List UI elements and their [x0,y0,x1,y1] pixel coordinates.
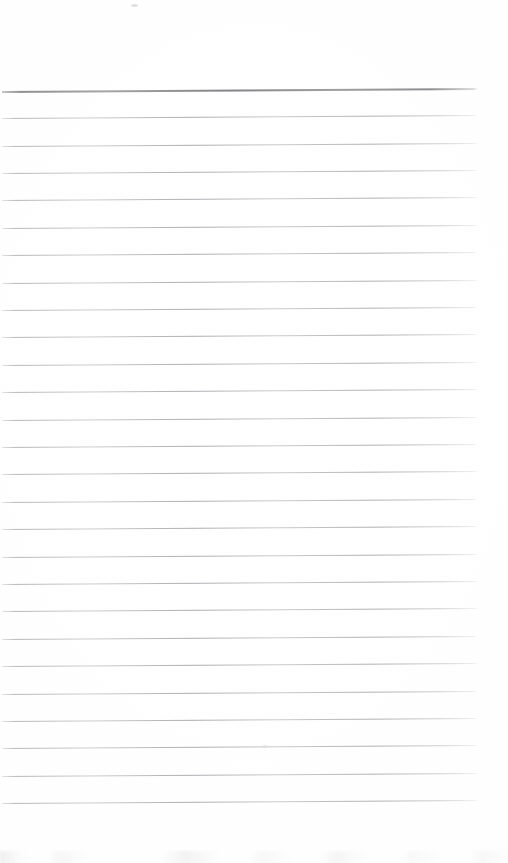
scanned-page [0,0,508,863]
rule-ink [2,197,478,201]
rule-ink [2,718,478,722]
ruled-line [2,581,478,585]
header-rule [2,88,478,93]
ruled-line [2,417,478,421]
rule-ink [2,581,478,585]
rule-ink [2,362,478,366]
rule-ink [2,608,478,612]
rule-ink [2,800,478,804]
ruled-line [2,471,478,475]
scan-speck-middle [262,745,268,748]
rule-ink [2,143,478,147]
rule-ink [2,115,478,119]
rule-ink [2,745,478,749]
ruled-line [2,499,478,503]
ruled-line [2,197,478,201]
scan-speck-top [131,4,138,7]
scan-smudge-bottom-edge [0,851,508,863]
rule-ink [2,471,478,475]
ruled-line [2,389,478,393]
rule-ink [2,334,478,338]
rule-ink [2,252,478,256]
ruled-line [2,663,478,667]
paper-surface [0,0,508,863]
ruled-line [2,170,478,174]
rule-ink [2,280,478,284]
ruled-line [2,691,478,695]
ruled-line [2,280,478,284]
rule-ink [2,499,478,503]
ruled-line [2,608,478,612]
ruled-line [2,307,478,311]
ruled-line [2,225,478,229]
rule-ink [2,636,478,640]
ruled-line [2,252,478,256]
ruled-line [2,444,478,448]
rule-ink [2,88,478,93]
rule-ink [2,554,478,558]
ruled-line [2,115,478,119]
rule-ink [2,307,478,311]
rule-ink [2,773,478,777]
rule-ink [2,444,478,448]
rule-ink [2,663,478,667]
ruled-line [2,143,478,147]
rule-ink [2,417,478,421]
ruled-line [2,800,478,804]
rule-ink [2,691,478,695]
ruled-line [2,718,478,722]
rule-ink [2,225,478,229]
rule-ink [2,526,478,530]
ruled-lines-layer [0,0,508,863]
ruled-line [2,334,478,338]
ruled-line [2,526,478,530]
ruled-line [2,745,478,749]
rule-ink [2,389,478,393]
ruled-line [2,362,478,366]
ruled-line [2,636,478,640]
rule-ink [2,170,478,174]
ruled-line [2,773,478,777]
ruled-line [2,554,478,558]
